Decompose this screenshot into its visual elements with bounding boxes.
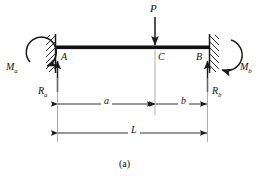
label-point-c: C bbox=[158, 52, 165, 62]
beam bbox=[55, 46, 210, 50]
label-reaction-ra: Ra bbox=[38, 86, 48, 99]
label-moment-ma: Ma bbox=[6, 62, 18, 75]
label-dim-a: a bbox=[101, 96, 112, 106]
left-fixed-support bbox=[44, 28, 57, 83]
label-dim-b: b bbox=[178, 96, 189, 106]
label-load-p: P bbox=[150, 3, 157, 14]
label-moment-mb: Mb bbox=[240, 62, 252, 75]
label-dim-l: L bbox=[128, 125, 140, 135]
figure-caption: (a) bbox=[119, 158, 130, 169]
label-point-b: B bbox=[196, 52, 202, 62]
label-point-a: A bbox=[61, 52, 67, 62]
label-reaction-rb: Rb bbox=[212, 86, 222, 99]
right-fixed-support bbox=[208, 28, 221, 83]
